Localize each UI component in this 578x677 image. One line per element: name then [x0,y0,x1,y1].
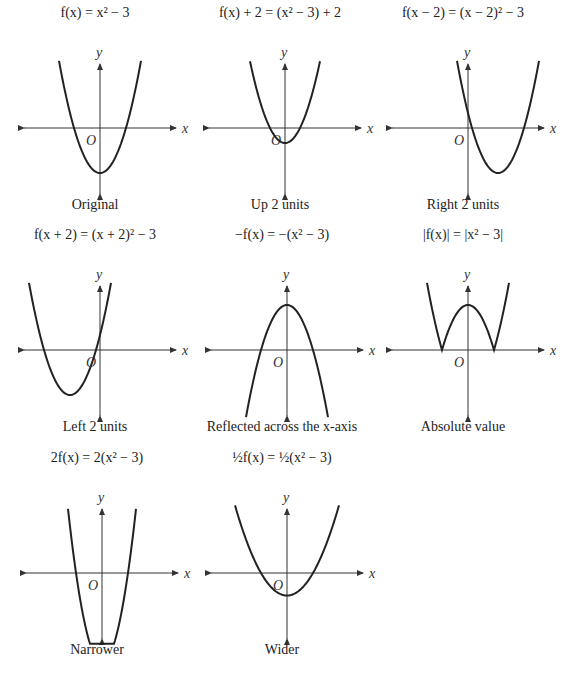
origin-label: O [86,133,96,148]
origin-label: O [273,355,283,370]
graph-caption: Right 2 units [368,197,558,213]
y-axis-label: y [94,267,103,282]
graph-panel-neg: −f(x) = −(x² − 3) x y O Reflected across… [187,222,377,442]
graph-plot: x y O [368,222,558,442]
graph-caption: Reflected across the x-axis [187,419,377,435]
y-axis-label: y [462,267,471,282]
y-axis-label: y [462,45,471,60]
graph-plot: x y O [2,445,192,665]
origin-label: O [88,578,98,593]
y-axis-label: y [96,490,105,505]
graph-caption: Narrower [2,642,192,658]
graph-panel-orig: f(x) = x² − 3 x y O Original [0,0,190,220]
graph-panel-abs: |f(x)| = |x² − 3| x y O Absolute value [368,222,558,442]
y-axis-label: y [281,267,290,282]
graph-panel-narrow: 2f(x) = 2(x² − 3) x y O Narrower [2,445,192,665]
graph-plot: x y O [187,445,377,665]
x-axis-label: x [368,566,376,581]
graph-caption: Original [0,197,190,213]
x-axis-label: x [549,121,557,136]
parabola-curve [457,61,539,173]
graph-panel-wide: ½f(x) = ½(x² − 3) x y O Wider [187,445,377,665]
graph-plot: x y O [0,222,190,442]
graph-caption: Wider [187,642,377,658]
parabola-curve [29,283,111,395]
graph-plot: x y O [185,0,375,220]
graph-panel-left: f(x + 2) = (x + 2)² − 3 x y O Left 2 uni… [0,222,190,442]
graph-plot: x y O [368,0,558,220]
origin-label: O [454,355,464,370]
graph-caption: Absolute value [368,419,558,435]
y-axis-label: y [94,45,103,60]
y-axis-label: y [279,45,288,60]
graph-caption: Up 2 units [185,197,375,213]
graph-caption: Left 2 units [0,419,190,435]
y-axis-label: y [281,490,290,505]
graph-plot: x y O [187,222,377,442]
graph-plot: x y O [0,0,190,220]
x-axis-label: x [549,343,557,358]
origin-label: O [454,133,464,148]
graph-panel-up: f(x) + 2 = (x² − 3) + 2 x y O Up 2 units [185,0,375,220]
graph-panel-right: f(x − 2) = (x − 2)² − 3 x y O Right 2 un… [368,0,558,220]
